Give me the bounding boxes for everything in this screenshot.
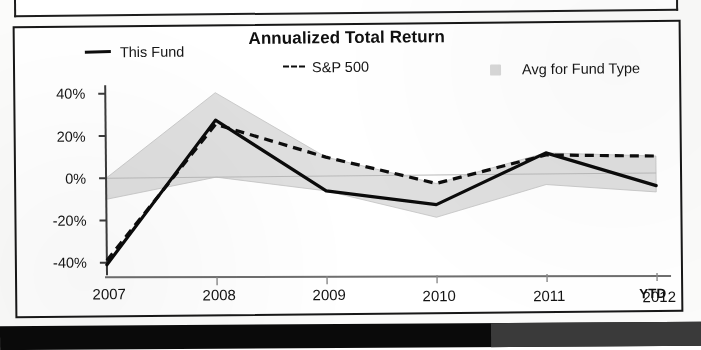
x-tick-label: 2010 xyxy=(422,287,456,304)
bottom-strip-right-segment xyxy=(491,322,701,347)
solid-line-swatch-icon xyxy=(85,50,111,54)
legend-item-this-fund[interactable]: This Fund xyxy=(85,44,185,61)
y-tick-label: -20% xyxy=(53,213,87,229)
gray-square-swatch-icon xyxy=(490,64,501,75)
dashed-line-swatch-icon xyxy=(283,65,305,67)
y-tick-label: -40% xyxy=(53,255,87,271)
x-tick-label: 2007 xyxy=(92,285,126,302)
y-tick-label: 20% xyxy=(57,128,86,144)
chart-panel: Annualized Total Return This Fund S&P 50… xyxy=(13,20,684,318)
y-tick-label: 40% xyxy=(56,86,85,102)
x-tick-label: 2008 xyxy=(202,286,236,303)
legend-label-sp500: S&P 500 xyxy=(312,59,369,76)
legend-item-avg-for-fund-type[interactable]: Avg for Fund Type xyxy=(490,60,640,77)
plot-area xyxy=(91,80,663,275)
y-axis-labels: 40%20%0%-20%-40% xyxy=(29,86,87,277)
x-tick-label: 2009 xyxy=(312,286,346,303)
chart-svg xyxy=(91,80,663,275)
y-tick-label: 0% xyxy=(65,170,86,186)
legend-label-this-fund: This Fund xyxy=(120,44,185,61)
bottom-black-strip xyxy=(0,322,701,350)
y-axis-line xyxy=(105,85,107,275)
legend-item-sp500[interactable]: S&P 500 xyxy=(283,59,369,76)
top-partial-panel xyxy=(14,0,678,17)
x-axis-labels: 200720082009201020112012 xyxy=(93,280,673,310)
x-tick-label: 2011 xyxy=(533,287,565,304)
ytd-note: YTD xyxy=(639,286,666,301)
legend-label-avg-for-fund-type: Avg for Fund Type xyxy=(522,60,640,77)
